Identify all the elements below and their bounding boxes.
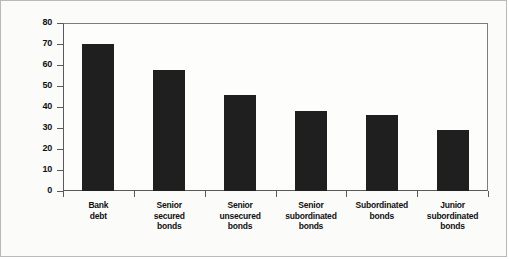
y-axis-tick-label: 80 [42, 17, 52, 27]
chart-figure: Recovery rate, % 80706050403020100 Bankd… [0, 0, 507, 257]
x-axis-label-line: bonds [411, 221, 495, 232]
x-axis-tick-mark [417, 191, 418, 197]
x-axis-tick-mark [276, 191, 277, 197]
x-axis-tick-mark [205, 191, 206, 197]
x-axis-label: Juniorsubordinatedbonds [411, 200, 495, 232]
x-axis-tick-mark [488, 191, 489, 197]
bar [437, 130, 469, 191]
y-axis-tick-label: 60 [42, 59, 52, 69]
bars-layer [63, 23, 488, 191]
y-axis-tick-label: 70 [42, 38, 52, 48]
x-axis-label-line: subordinated [411, 211, 495, 222]
y-axis-tick-label: 10 [42, 164, 52, 174]
y-axis-tick-label: 30 [42, 122, 52, 132]
x-axis-tick-mark [63, 191, 64, 197]
bar [153, 70, 185, 191]
x-axis-tick-mark [134, 191, 135, 197]
x-axis-tick-mark [346, 191, 347, 197]
bar [82, 44, 114, 191]
y-axis-tick-label: 20 [42, 143, 52, 153]
y-axis-tick-label: 0 [47, 185, 52, 195]
bar [224, 95, 256, 191]
y-axis-tick-label: 40 [42, 101, 52, 111]
bar [295, 111, 327, 191]
y-axis-tick-label: 50 [42, 80, 52, 90]
bar [366, 115, 398, 191]
x-axis-label-line: Junior [411, 200, 495, 211]
x-axis-label-line: bonds [269, 221, 353, 232]
